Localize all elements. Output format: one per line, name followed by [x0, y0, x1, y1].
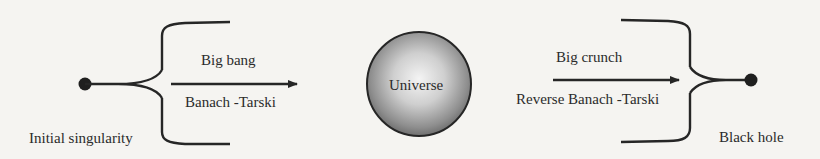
- big-crunch-label: Big crunch: [556, 50, 622, 65]
- initial-singularity-label: Initial singularity: [29, 131, 133, 146]
- black-hole-dot: [745, 74, 758, 87]
- diagram-canvas: Initial singularity Big bang Banach -Tar…: [0, 0, 820, 159]
- black-hole-label: Black hole: [719, 130, 784, 145]
- left-fork-connector: [85, 70, 162, 98]
- right-fork-connector: [690, 67, 751, 93]
- universe-label: Universe: [389, 78, 443, 93]
- banach-tarski-label: Banach -Tarski: [185, 95, 276, 110]
- reverse-banach-tarski-label: Reverse Banach -Tarski: [516, 92, 659, 107]
- big-bang-label: Big bang: [201, 53, 256, 68]
